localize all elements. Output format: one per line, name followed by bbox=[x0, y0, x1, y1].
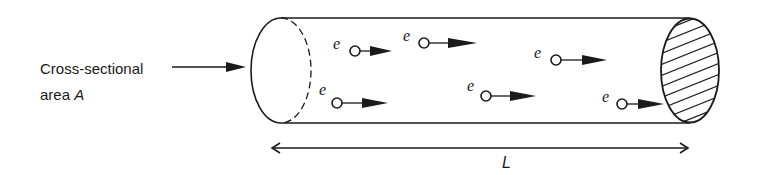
svg-text:e: e bbox=[467, 77, 474, 94]
electron-circle-icon bbox=[350, 46, 360, 56]
conductor-diagram: Cross-sectional area A bbox=[0, 0, 758, 175]
svg-text:e: e bbox=[534, 44, 541, 61]
pointer-arrow-icon bbox=[172, 62, 246, 72]
electron-circle-icon bbox=[481, 91, 491, 101]
electron-circle-icon bbox=[551, 55, 561, 65]
svg-text:e: e bbox=[333, 35, 340, 52]
cross-section-label-line1: Cross-sectional bbox=[40, 60, 143, 77]
left-end-solid-arc bbox=[251, 18, 281, 123]
electron-6: e bbox=[602, 88, 664, 109]
electron-1: e bbox=[333, 35, 392, 56]
electron-2: e bbox=[403, 27, 477, 48]
electron-5: e bbox=[534, 44, 607, 65]
cross-section-label-line2: area A bbox=[40, 86, 84, 103]
length-label: L bbox=[502, 154, 511, 171]
drift-arrow-icon bbox=[448, 38, 477, 48]
hatched-cross-section bbox=[640, 0, 740, 161]
svg-text:e: e bbox=[403, 27, 410, 44]
electron-circle-icon bbox=[332, 98, 342, 108]
svg-text:e: e bbox=[319, 81, 326, 98]
length-dimension: L bbox=[272, 143, 688, 171]
electron-4: e bbox=[467, 77, 536, 101]
drift-arrow-icon bbox=[638, 99, 664, 109]
drift-arrow-icon bbox=[510, 91, 536, 101]
electron-circle-icon bbox=[419, 38, 429, 48]
left-end-dashed-arc bbox=[281, 18, 311, 123]
svg-text:e: e bbox=[602, 88, 609, 105]
drift-arrow-icon bbox=[582, 55, 607, 65]
drift-arrow-icon bbox=[370, 46, 392, 56]
area-word: area bbox=[40, 86, 74, 103]
electron-3: e bbox=[319, 81, 388, 108]
electron-circle-icon bbox=[617, 99, 627, 109]
area-variable: A bbox=[73, 86, 84, 103]
drift-arrow-icon bbox=[362, 98, 388, 108]
